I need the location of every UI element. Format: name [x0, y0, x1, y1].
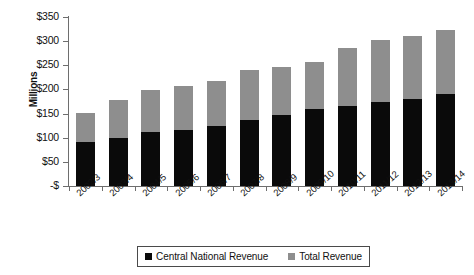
legend-label-central: Central National Revenue [156, 251, 268, 262]
x-axis-tick [364, 186, 365, 191]
x-axis-tick [102, 186, 103, 191]
bar-group [272, 17, 291, 186]
bar-segment-total-revenue [174, 86, 193, 130]
stacked-bar-chart: Millions -$$50$100$150$200$250$300$350 2… [0, 0, 474, 275]
x-axis-tick [397, 186, 398, 191]
bar-group [109, 17, 128, 186]
y-axis-tick-label: $250 [36, 58, 59, 70]
x-axis-tick [331, 186, 332, 191]
bar-group [371, 17, 390, 186]
bar-segment-central-national-revenue [436, 94, 455, 186]
bar-group [141, 17, 160, 186]
y-axis-tick [63, 65, 69, 66]
bar-segment-total-revenue [338, 48, 357, 106]
legend-item-total-revenue: Total Revenue [288, 251, 362, 262]
x-axis-tick [233, 186, 234, 191]
legend-item-central-national-revenue: Central National Revenue [145, 251, 268, 262]
y-axis-tick-label: $300 [36, 34, 59, 46]
bar-group [207, 17, 226, 186]
x-axis-tick [167, 186, 168, 191]
legend-label-total: Total Revenue [299, 251, 362, 262]
y-axis-tick [63, 17, 69, 18]
bar-group [436, 17, 455, 186]
legend-swatch-icon-central [145, 253, 152, 260]
bar-segment-total-revenue [109, 100, 128, 138]
legend-swatch-icon-total [288, 253, 295, 260]
bar-segment-total-revenue [141, 90, 160, 132]
y-axis-tick-label: $150 [36, 107, 59, 119]
y-axis-tick-label: -$ [50, 179, 59, 191]
y-axis-tick-label: $50 [42, 155, 59, 167]
bar-group [338, 17, 357, 186]
y-axis-tick [63, 114, 69, 115]
bar-segment-total-revenue [436, 30, 455, 94]
y-axis-tick [63, 89, 69, 90]
x-axis-tick [429, 186, 430, 191]
bar-segment-total-revenue [272, 67, 291, 115]
bar-group [76, 17, 95, 186]
x-axis-tick [298, 186, 299, 191]
y-axis-tick [63, 138, 69, 139]
bar-segment-total-revenue [371, 40, 390, 103]
y-axis-tick [63, 41, 69, 42]
bar-segment-total-revenue [207, 81, 226, 125]
y-axis-tick-label: $350 [36, 10, 59, 22]
bar-group [403, 17, 422, 186]
x-axis-tick [266, 186, 267, 191]
bar-group [305, 17, 324, 186]
bar-group [174, 17, 193, 186]
x-axis-tick [69, 186, 70, 191]
bar-segment-total-revenue [403, 36, 422, 99]
bar-segment-total-revenue [240, 70, 259, 120]
bar-segment-total-revenue [76, 113, 95, 142]
y-axis-tick-label: $200 [36, 82, 59, 94]
x-axis-tick [135, 186, 136, 191]
bar-segment-total-revenue [305, 62, 324, 109]
x-axis-tick [462, 186, 463, 191]
x-axis-tick [200, 186, 201, 191]
y-axis-tick [63, 162, 69, 163]
chart-legend: Central National Revenue Total Revenue [137, 246, 370, 267]
y-axis-tick-label: $100 [36, 131, 59, 143]
bar-group [240, 17, 259, 186]
